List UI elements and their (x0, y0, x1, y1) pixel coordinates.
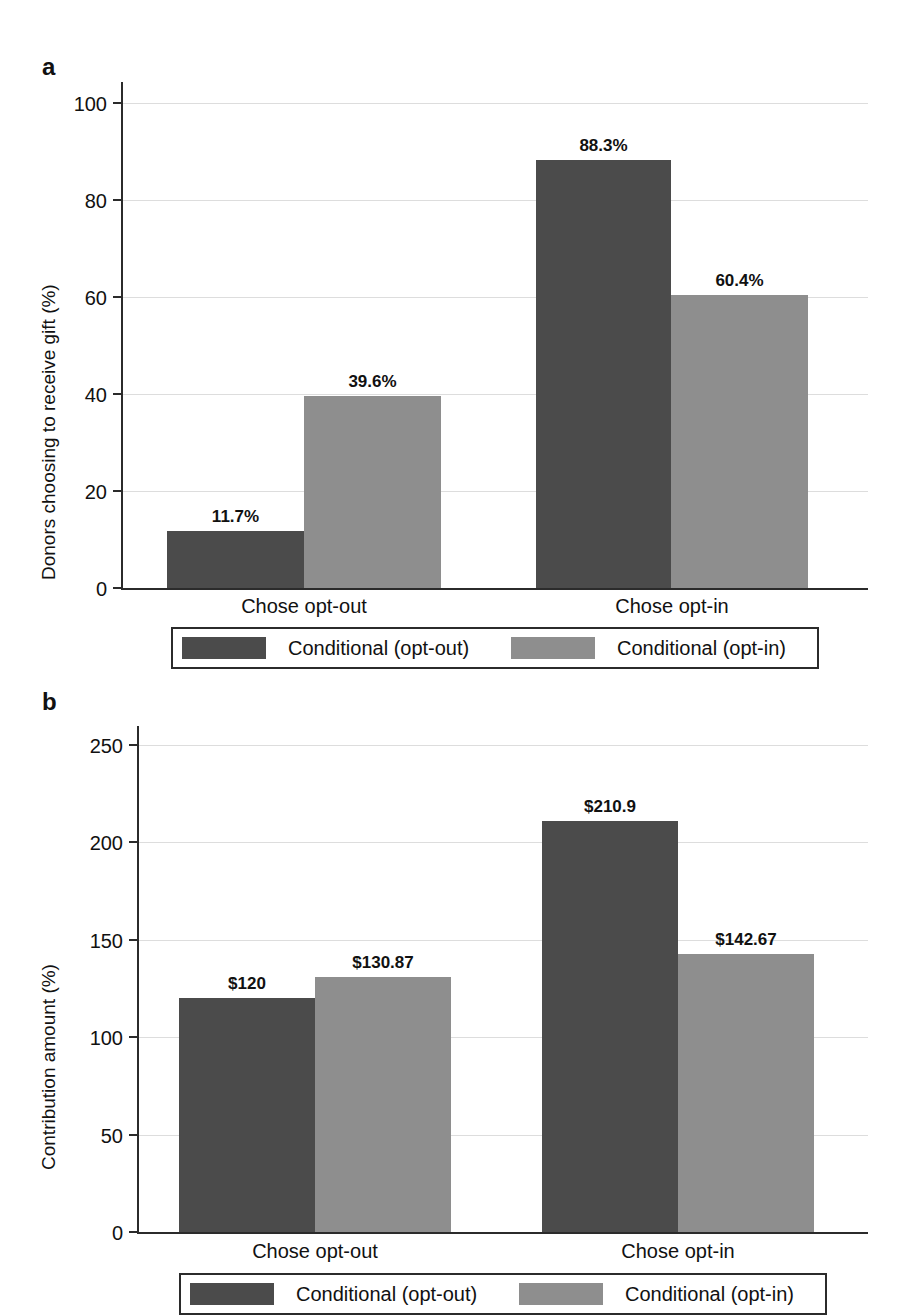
bar-a-optout-conditional-optin (304, 396, 441, 588)
panel-b-legend: Conditional (opt-out) Conditional (opt-i… (179, 1273, 827, 1315)
bar-value-a-3: 88.3% (536, 137, 671, 154)
bar-value-a-2: 39.6% (304, 373, 441, 390)
bar-value-b-4: $142.67 (678, 931, 814, 948)
panel-a-x-axis (121, 588, 868, 590)
bar-value-a-4: 60.4% (671, 272, 808, 289)
bar-a-optin-conditional-optout (536, 160, 671, 588)
bar-a-optin-conditional-optin (671, 295, 808, 588)
category-label-a-optin: Chose opt-in (536, 596, 808, 616)
panel-b: b Contribution amount (%) 250 200 150 10… (0, 690, 899, 1302)
category-label-b-optout: Chose opt-out (179, 1241, 451, 1261)
legend-swatch-light-icon (511, 637, 595, 659)
bar-b-optout-conditional-optin (315, 977, 451, 1232)
bar-value-a-1: 11.7% (167, 508, 304, 525)
legend-entry-b-conditional-optout[interactable]: Conditional (opt-out) (190, 1283, 477, 1305)
legend-swatch-dark-icon (182, 637, 266, 659)
category-label-a-optout: Chose opt-out (167, 596, 441, 616)
legend-entry-b-conditional-optin[interactable]: Conditional (opt-in) (519, 1283, 794, 1305)
category-label-b-optin: Chose opt-in (542, 1241, 814, 1261)
panel-b-plot-area: 250 200 150 100 50 0 $120 $130.87 $210.9… (0, 690, 899, 1260)
bar-b-optin-conditional-optin (678, 954, 814, 1232)
legend-entry-a-conditional-optin[interactable]: Conditional (opt-in) (511, 637, 786, 659)
legend-label-b-1: Conditional (opt-out) (296, 1284, 477, 1304)
bar-value-b-3: $210.9 (542, 798, 678, 815)
panel-a: a Donors choosing to receive gift (%) 10… (0, 0, 899, 680)
legend-label-b-2: Conditional (opt-in) (625, 1284, 794, 1304)
legend-label-a-1: Conditional (opt-out) (288, 638, 469, 658)
legend-swatch-dark-icon (190, 1283, 274, 1305)
legend-entry-a-conditional-optout[interactable]: Conditional (opt-out) (182, 637, 469, 659)
bar-a-optout-conditional-optout (167, 531, 304, 588)
bar-b-optin-conditional-optout (542, 821, 678, 1232)
panel-a-plot-area: 100 80 60 40 20 0 11.7% 39.6% 88.3% 60.4… (0, 0, 899, 620)
bar-b-optout-conditional-optout (179, 998, 315, 1232)
legend-label-a-2: Conditional (opt-in) (617, 638, 786, 658)
legend-swatch-light-icon (519, 1283, 603, 1305)
bar-value-b-1: $120 (179, 975, 315, 992)
panel-a-legend: Conditional (opt-out) Conditional (opt-i… (171, 627, 819, 669)
panel-b-x-axis (137, 1232, 868, 1234)
bar-value-b-2: $130.87 (315, 954, 451, 971)
